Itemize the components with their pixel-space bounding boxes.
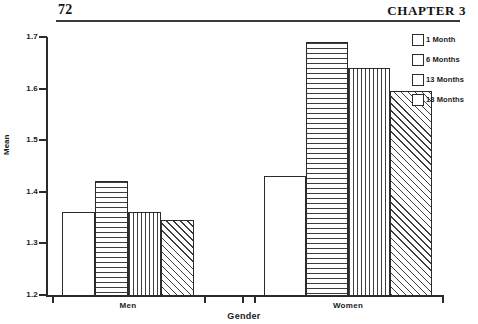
legend: 1 Month 6 Months 13 Months 18 Months [412, 32, 478, 112]
legend-item: 6 Months [412, 52, 478, 72]
bar-women-6-months [306, 42, 348, 296]
legend-item: 13 Months [412, 72, 478, 92]
figure: Mean Gender 1.21.31.41.51.61.7MenWomen 1… [0, 26, 478, 324]
bar-women-1-month [264, 176, 306, 296]
legend-swatch-13-months-icon [412, 74, 424, 86]
y-axis-tick-label: 1.7 [8, 32, 38, 41]
legend-swatch-6-months-icon [412, 54, 424, 66]
y-axis-tick [39, 88, 47, 90]
legend-item: 18 Months [412, 92, 478, 112]
y-axis-tick [39, 139, 47, 141]
y-axis-tick-label: 1.6 [8, 84, 38, 93]
legend-label: 18 Months [426, 95, 464, 104]
running-head: 72 CHAPTER 3 [0, 0, 478, 26]
y-axis-tick-label: 1.4 [8, 187, 38, 196]
y-axis-tick-label: 1.2 [8, 290, 38, 299]
page: 72 CHAPTER 3 Mean Gender 1.21.31.41.51.6… [0, 0, 478, 324]
legend-label: 13 Months [426, 75, 464, 84]
bar-men-1-month [62, 212, 95, 296]
y-axis-tick [39, 191, 47, 193]
plot-area: Mean Gender 1.21.31.41.51.61.7MenWomen [46, 37, 442, 321]
legend-swatch-18-months-icon [412, 94, 424, 106]
legend-label: 1 Month [426, 35, 455, 44]
x-axis-title: Gender [46, 311, 442, 321]
bar-women-13-months [348, 68, 390, 296]
x-axis-tick [242, 295, 244, 303]
y-axis-tick-label: 1.3 [8, 238, 38, 247]
page-number: 72 [58, 2, 72, 18]
x-axis-tick [442, 295, 444, 303]
header-rule [56, 20, 460, 22]
x-axis-tick [52, 295, 54, 303]
x-axis-tick [204, 295, 206, 303]
y-axis-tick [39, 36, 47, 38]
legend-label: 6 Months [426, 55, 460, 64]
y-axis-line [46, 37, 48, 296]
x-axis-group-label: Women [264, 301, 432, 310]
y-axis-tick-label: 1.5 [8, 135, 38, 144]
y-axis-tick [39, 294, 47, 296]
bar-men-6-months [95, 181, 128, 296]
chapter-title: CHAPTER 3 [387, 3, 466, 19]
x-axis-tick [254, 295, 256, 303]
legend-item: 1 Month [412, 32, 478, 52]
y-axis-tick [39, 242, 47, 244]
bar-women-18-months [390, 91, 432, 296]
bar-men-13-months [128, 212, 161, 296]
legend-swatch-1-month-icon [412, 34, 424, 46]
bar-men-18-months [161, 220, 194, 296]
x-axis-group-label: Men [62, 301, 194, 310]
